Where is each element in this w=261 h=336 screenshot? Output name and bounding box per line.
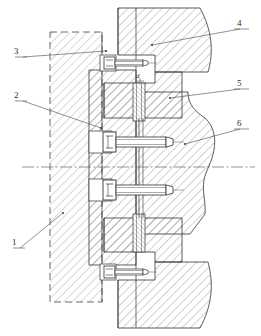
dowel-pin-upper [133,83,145,121]
dimension-label-d: d [136,73,140,80]
part-6-right-curved-body [136,92,215,234]
socket-head-screw-bottom [100,264,157,280]
callout-label-5: 5 [237,79,242,88]
technical-drawing-canvas: 1 2 3 4 5 6 d [0,0,261,336]
callout-label-6: 6 [237,119,242,128]
assembly-section-drawing [0,0,261,336]
callout-label-4: 4 [237,19,242,28]
callout-label-1: 1 [12,238,17,247]
dowel-pin-lower [133,214,145,252]
callout-label-3: 3 [14,47,19,56]
callout-label-2: 2 [14,91,19,100]
socket-head-screw-top [100,55,157,71]
